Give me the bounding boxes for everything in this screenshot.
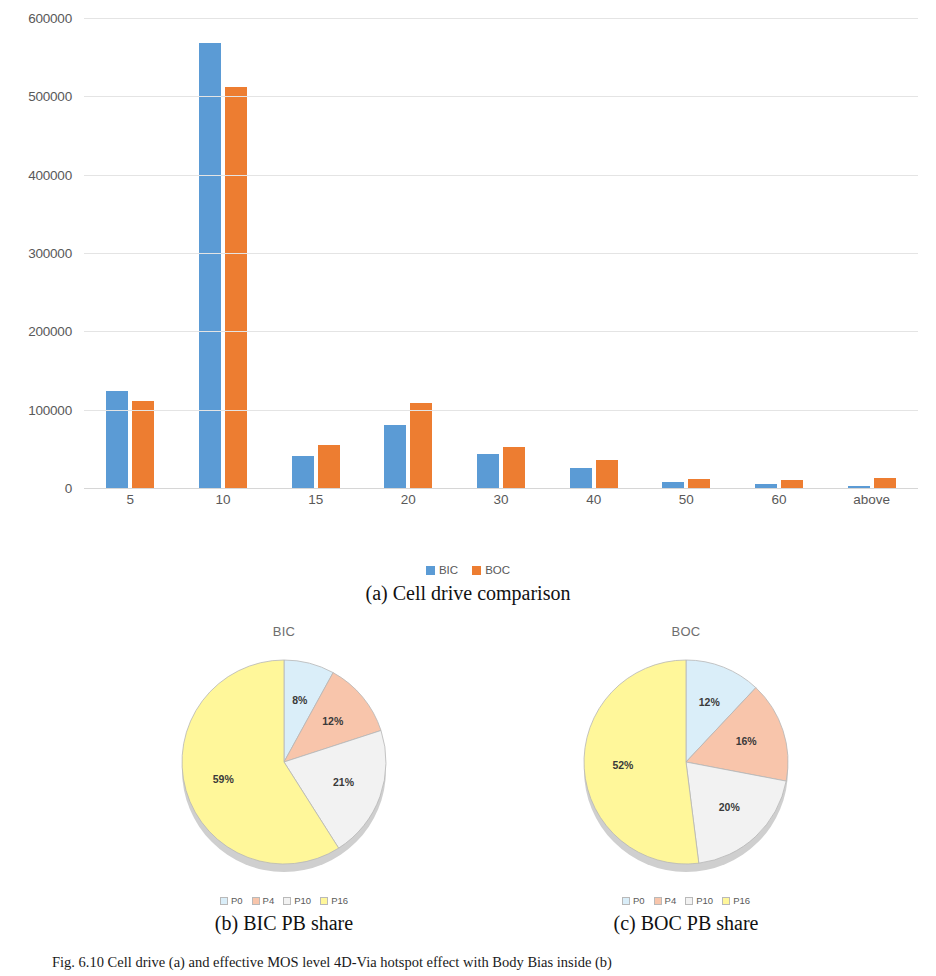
legend-label: P4: [263, 895, 275, 906]
legend-swatch-icon: [685, 897, 693, 905]
pie-slice-value-label: 21%: [333, 776, 355, 788]
cell-drive-bar-figure: 0100000200000300000400000500000600000 51…: [0, 0, 936, 620]
bar-bic: [477, 454, 499, 488]
legend-label: BIC: [439, 564, 458, 576]
bic-pb-share-figure: BIC 8%12%21%59% P0P4P10P16: [84, 624, 484, 924]
pie-legend-item-p4: P4: [252, 895, 275, 906]
x-axis-tick-label: above: [853, 492, 890, 507]
bar-boc: [874, 478, 896, 488]
legend-label: P16: [331, 895, 348, 906]
legend-swatch-icon: [622, 897, 630, 905]
boc-pb-share-figure: BOC 12%16%20%52% P0P4P10P16: [486, 624, 886, 924]
pie-legend-boc: P0P4P10P16: [486, 895, 886, 906]
subcaption-a: (a) Cell drive comparison: [0, 582, 936, 605]
pie-legend-item-p10: P10: [283, 895, 311, 906]
x-axis-tick-label: 5: [127, 492, 135, 507]
x-axis-tick-label: 40: [586, 492, 601, 507]
bar-bic: [292, 456, 314, 488]
legend-swatch-icon: [654, 897, 662, 905]
legend-label: BOC: [485, 564, 510, 576]
legend-swatch-icon: [722, 897, 730, 905]
figure-caption: Fig. 6.10 Cell drive (a) and effective M…: [52, 952, 896, 976]
pie-slice-value-label: 12%: [322, 715, 344, 727]
x-axis-tick-label: 20: [401, 492, 416, 507]
bar-chart-plot: 0100000200000300000400000500000600000 51…: [0, 18, 936, 518]
pie-title-boc: BOC: [486, 624, 886, 639]
pie-chart-bic-pb-share: 8%12%21%59%: [159, 642, 409, 892]
gridline: [84, 175, 918, 176]
bar-boc: [225, 87, 247, 488]
y-axis-tick-label: 300000: [28, 246, 72, 261]
gridline: [84, 253, 918, 254]
bar-chart-plot-area: [84, 18, 918, 488]
pie-legend-item-p4: P4: [654, 895, 677, 906]
y-axis-tick-label: 200000: [28, 324, 72, 339]
pie-slice-value-label: 16%: [736, 735, 758, 747]
legend-swatch-icon: [220, 897, 228, 905]
legend-swatch-icon: [252, 897, 260, 905]
bar-boc: [410, 403, 432, 488]
pie-slice-p16: [584, 660, 699, 864]
legend-label: P16: [733, 895, 750, 906]
legend-label: P10: [696, 895, 713, 906]
subcaption-b: (b) BIC PB share: [84, 912, 484, 935]
pie-legend-item-p0: P0: [220, 895, 243, 906]
bar-chart-x-axis: 510152030405060above: [84, 492, 918, 518]
gridline: [84, 410, 918, 411]
pie-slice-value-label: 52%: [612, 759, 634, 771]
pie-legend-item-p16: P16: [320, 895, 348, 906]
x-axis-tick-label: 30: [493, 492, 508, 507]
bar-boc: [503, 447, 525, 488]
legend-item-boc: BOC: [472, 564, 510, 576]
subcaption-c: (c) BOC PB share: [486, 912, 886, 935]
legend-label: P4: [665, 895, 677, 906]
pie-slice-value-label: 20%: [719, 801, 741, 813]
y-axis-tick-label: 500000: [28, 89, 72, 104]
bar-boc: [596, 460, 618, 488]
bar-boc: [132, 401, 154, 488]
x-axis-tick-label: 60: [771, 492, 786, 507]
x-axis-tick-label: 10: [215, 492, 230, 507]
x-axis-tick-label: 50: [679, 492, 694, 507]
pie-canvas-bic: 8%12%21%59%: [84, 642, 484, 892]
bar-bic: [570, 468, 592, 488]
bar-chart-y-axis: 0100000200000300000400000500000600000: [0, 18, 78, 488]
bar-boc: [688, 479, 710, 488]
bar-bic: [199, 43, 221, 488]
bar-chart-legend: BICBOC: [0, 564, 936, 576]
bar-boc: [781, 480, 803, 488]
legend-swatch-icon: [320, 897, 328, 905]
pie-slice-value-label: 12%: [699, 696, 721, 708]
legend-swatch-icon: [426, 566, 435, 575]
bar-bic: [384, 425, 406, 488]
bar-boc: [318, 445, 340, 488]
pie-legend-item-p16: P16: [722, 895, 750, 906]
pie-canvas-boc: 12%16%20%52%: [486, 642, 886, 892]
y-axis-tick-label: 400000: [28, 167, 72, 182]
gridline: [84, 331, 918, 332]
pie-legend-item-p0: P0: [622, 895, 645, 906]
pie-slice-value-label: 8%: [292, 694, 308, 706]
x-axis-tick-label: 15: [308, 492, 323, 507]
legend-label: P0: [231, 895, 243, 906]
pie-chart-boc-pb-share: 12%16%20%52%: [561, 642, 811, 892]
pie-legend-bic: P0P4P10P16: [84, 895, 484, 906]
y-axis-tick-label: 600000: [28, 11, 72, 26]
gridline: [84, 96, 918, 97]
pie-legend-item-p10: P10: [685, 895, 713, 906]
gridline: [84, 18, 918, 19]
bar-bic: [106, 391, 128, 488]
pie-title-bic: BIC: [84, 624, 484, 639]
legend-swatch-icon: [283, 897, 291, 905]
legend-swatch-icon: [472, 566, 481, 575]
gridline: [84, 488, 918, 489]
legend-label: P10: [294, 895, 311, 906]
y-axis-tick-label: 100000: [28, 402, 72, 417]
legend-label: P0: [633, 895, 645, 906]
legend-item-bic: BIC: [426, 564, 458, 576]
y-axis-tick-label: 0: [65, 481, 72, 496]
pie-slice-value-label: 59%: [213, 773, 235, 785]
